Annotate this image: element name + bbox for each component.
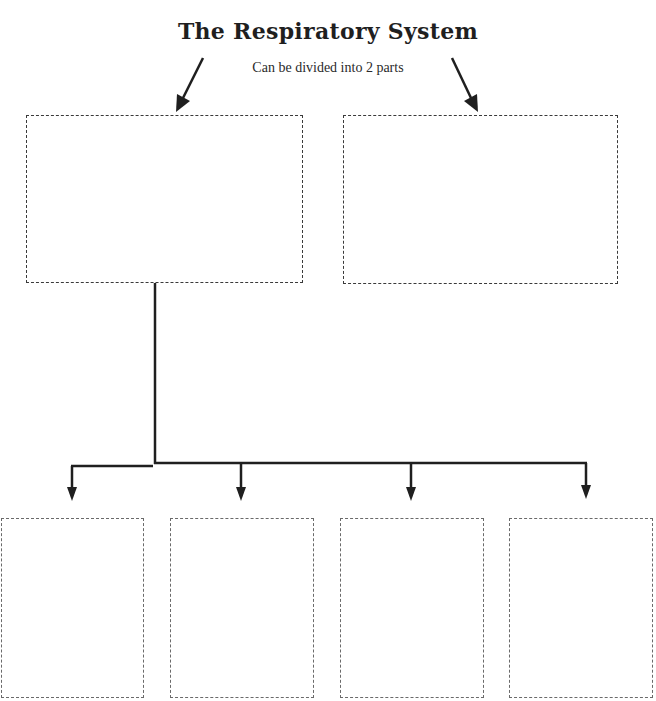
arrow-to-part-2 (452, 58, 478, 112)
arrow-to-part-1 (176, 58, 203, 112)
arrow-to-sub-3 (406, 463, 416, 501)
sub-1-box[interactable] (1, 518, 144, 698)
arrow-to-sub-2 (236, 463, 246, 501)
sub-3-box[interactable] (340, 518, 484, 698)
sub-4-box[interactable] (509, 518, 653, 698)
part-1-box[interactable] (26, 115, 303, 283)
arrow-to-sub-4 (581, 463, 591, 499)
sub-2-box[interactable] (170, 518, 314, 698)
part-2-box[interactable] (343, 115, 618, 284)
arrow-to-sub-1 (67, 466, 77, 501)
